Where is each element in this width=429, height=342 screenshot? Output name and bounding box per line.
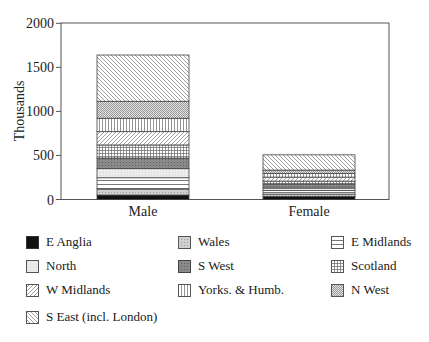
bar-segment bbox=[97, 55, 189, 101]
x-axis-labels: MaleFemale bbox=[129, 204, 330, 219]
legend-label: S West bbox=[198, 258, 234, 274]
swatch-horizontal-lines-icon bbox=[331, 236, 344, 249]
bar-segment bbox=[263, 181, 355, 184]
swatch-very-light-gray-icon bbox=[26, 260, 39, 273]
legend-item-w-midlands: W Midlands bbox=[26, 282, 110, 298]
bar-segment bbox=[97, 101, 189, 118]
legend-label: E Midlands bbox=[351, 234, 411, 250]
legend-label: E Anglia bbox=[46, 234, 92, 250]
swatch-diagonal-back-icon bbox=[26, 311, 39, 324]
legend-label: Wales bbox=[198, 234, 229, 250]
bar-segment bbox=[263, 177, 355, 181]
y-tick-label: 500 bbox=[33, 148, 54, 163]
legend-label: North bbox=[46, 258, 76, 274]
swatch-checker-icon bbox=[331, 284, 344, 297]
bar-segment bbox=[263, 197, 355, 200]
legend-label: Scotland bbox=[351, 258, 397, 274]
bar-segment bbox=[263, 170, 355, 174]
bar-segment bbox=[263, 191, 355, 195]
x-tick-label: Female bbox=[288, 204, 329, 219]
legend-item-scotland: Scotland bbox=[331, 258, 397, 274]
swatch-vertical-lines-icon bbox=[178, 284, 191, 297]
bar-segment bbox=[97, 132, 189, 145]
legend-item-n-west: N West bbox=[331, 282, 389, 298]
bar-segment bbox=[263, 155, 355, 170]
bar-segment bbox=[263, 184, 355, 188]
y-tick-label: 1500 bbox=[26, 60, 54, 75]
swatch-solid-black-icon bbox=[26, 236, 39, 249]
legend-item-yorks-humb: Yorks. & Humb. bbox=[178, 282, 284, 298]
bar-segment bbox=[97, 189, 189, 195]
legend-item-wales: Wales bbox=[178, 234, 229, 250]
bar-segment bbox=[97, 145, 189, 158]
bars bbox=[97, 55, 355, 199]
swatch-light-gray-icon bbox=[178, 236, 191, 249]
bar-segment bbox=[263, 174, 355, 178]
stacked-bar-chart: 0500100015002000 Thousands MaleFemale bbox=[0, 0, 429, 220]
legend-item-e-anglia: E Anglia bbox=[26, 234, 92, 250]
legend: E Anglia Wales E Midlands North S West S… bbox=[0, 228, 429, 342]
swatch-dark-gray-icon bbox=[178, 260, 191, 273]
y-tick-label: 2000 bbox=[26, 16, 54, 31]
legend-label: N West bbox=[351, 282, 389, 298]
legend-label: Yorks. & Humb. bbox=[198, 282, 284, 298]
y-axis: 0500100015002000 bbox=[26, 16, 61, 207]
legend-label: W Midlands bbox=[46, 282, 110, 298]
legend-item-e-midlands: E Midlands bbox=[331, 234, 411, 250]
legend-item-north: North bbox=[26, 258, 76, 274]
bar-segment bbox=[97, 158, 189, 169]
bar-segment bbox=[97, 195, 189, 199]
bar-segment bbox=[97, 118, 189, 131]
swatch-diagonal-forward-icon bbox=[26, 284, 39, 297]
bar-male bbox=[97, 55, 189, 199]
legend-label: S East (incl. London) bbox=[46, 309, 157, 325]
y-tick-label: 0 bbox=[47, 193, 54, 208]
bar-segment bbox=[97, 178, 189, 189]
swatch-grid-icon bbox=[331, 260, 344, 273]
bar-segment bbox=[97, 169, 189, 178]
bar-female bbox=[263, 155, 355, 200]
legend-item-s-east: S East (incl. London) bbox=[26, 309, 157, 325]
y-axis-label: Thousands bbox=[12, 81, 27, 142]
legend-item-s-west: S West bbox=[178, 258, 234, 274]
x-tick-label: Male bbox=[129, 204, 158, 219]
y-tick-label: 1000 bbox=[26, 104, 54, 119]
